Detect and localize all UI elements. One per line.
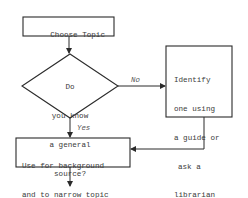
identify-line-2: one using [174, 105, 232, 115]
decision-line-1: Do [30, 83, 110, 93]
choose-topic-text: Choose Topic [23, 22, 114, 51]
flowchart: Choose Topic Do you know a general sourc… [0, 0, 248, 198]
identify-line-1: Identify [174, 76, 232, 86]
decision-line-2: you know [30, 112, 110, 122]
identify-text: Identify one using a guide or ask a libr… [174, 57, 232, 198]
yes-label: Yes [77, 124, 90, 132]
identify-line-4: ask a [174, 163, 232, 173]
identify-line-5: librarian [174, 191, 232, 198]
use-line-1: Use for background [22, 162, 128, 172]
no-label: No [131, 76, 140, 84]
identify-line-3: a guide or [174, 134, 232, 144]
use-line-2: and to narrow topic [22, 191, 128, 198]
choose-topic-line: Choose Topic [50, 31, 105, 39]
use-text: Use for background and to narrow topic [22, 143, 128, 198]
